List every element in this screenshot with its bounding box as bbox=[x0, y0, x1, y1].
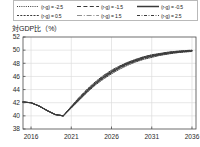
y-tick-label: 50 bbox=[13, 46, 21, 53]
plot-background bbox=[23, 37, 196, 129]
x-tick-label: 2026 bbox=[104, 133, 119, 140]
x-tick-label: 2036 bbox=[185, 133, 200, 140]
plot-svg: 3840424446485052 20162021202620312036 bbox=[0, 0, 200, 147]
x-tick-label: 2031 bbox=[144, 133, 159, 140]
y-tick-label: 52 bbox=[13, 33, 21, 40]
y-tick-label: 48 bbox=[13, 60, 21, 67]
y-tick-label: 46 bbox=[13, 73, 21, 80]
y-tick-label: 42 bbox=[13, 99, 21, 106]
chart-container: (r-g) = -2.5 (r-g) = -1.5 (r-g) = -0.5 bbox=[0, 0, 200, 147]
plot-area-wrapper: 3840424446485052 20162021202620312036 bbox=[0, 0, 200, 147]
y-tick-label: 40 bbox=[13, 112, 21, 119]
x-tick-label: 2021 bbox=[64, 133, 79, 140]
y-tick-label: 38 bbox=[13, 125, 21, 132]
x-tick-label: 2016 bbox=[24, 133, 39, 140]
y-tick-label: 44 bbox=[13, 86, 21, 93]
